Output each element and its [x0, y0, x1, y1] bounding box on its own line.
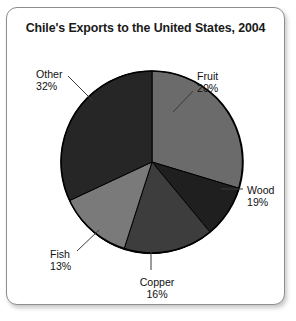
pie-label-fish-name: Fish [50, 248, 71, 260]
pie-label-copper-value: 16% [129, 288, 185, 300]
chart-card: Chile's Exports to the United States, 20… [6, 7, 285, 305]
pie-label-wood: Wood 19% [247, 184, 274, 209]
pie-label-other-value: 32% [36, 80, 63, 92]
pie-label-wood-value: 19% [247, 196, 274, 208]
pie-label-other: Other 32% [36, 68, 63, 93]
leader-line-fish [77, 230, 99, 251]
pie-label-copper-name: Copper [129, 276, 185, 288]
pie-label-copper: Copper 16% [129, 276, 185, 301]
pie-label-other-name: Other [36, 68, 63, 80]
pie-label-fish-value: 13% [50, 260, 71, 272]
pie-label-fish: Fish 13% [50, 248, 71, 273]
pie-label-fruit-name: Fruit [197, 70, 218, 82]
leader-line-other [68, 76, 93, 101]
pie-label-wood-name: Wood [247, 184, 274, 196]
pie-label-fruit: Fruit 20% [197, 70, 218, 95]
pie-label-fruit-value: 20% [197, 82, 218, 94]
pie-chart [7, 8, 286, 306]
